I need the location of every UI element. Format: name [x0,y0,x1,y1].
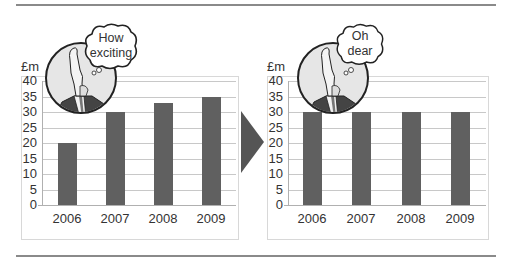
x-tick-label: 2009 [187,211,235,226]
x-tick-label: 2008 [387,211,435,226]
bar-2007 [352,112,371,205]
top-rule [16,4,496,6]
x-axis-line [38,205,236,206]
y-tick-label: 0 [261,197,283,212]
bar-2009 [451,112,470,205]
bar-2008 [402,112,421,205]
y-tick-label: 40 [261,73,283,88]
y-axis-unit-label: £m [267,59,285,74]
y-tick-label: 35 [15,89,37,104]
x-axis-line [284,205,486,206]
bar-2007 [106,112,125,205]
y-tick-label: 10 [261,166,283,181]
bubble-line: How [85,31,137,46]
bubble-line: Oh [336,29,384,44]
y-axis-line [42,81,43,206]
bubble-line: exciting [85,46,137,61]
y-axis-unit-label: £m [21,59,39,74]
x-tick-label: 2009 [436,211,484,226]
y-tick-label: 30 [261,104,283,119]
y-tick-label: 15 [261,151,283,166]
y-tick-label: 0 [15,197,37,212]
y-tick-label: 10 [15,166,37,181]
y-tick-label: 20 [15,135,37,150]
thought-bubble-text: Oh dear [336,29,384,59]
x-tick-label: 2008 [139,211,187,226]
x-tick-label: 2007 [337,211,385,226]
y-tick-label: 20 [261,135,283,150]
bar-2006 [58,143,77,205]
y-tick-label: 5 [15,182,37,197]
thought-bubble-text: How exciting [85,31,137,61]
y-tick-label: 30 [15,104,37,119]
bubble-line: dear [336,44,384,59]
x-tick-label: 2006 [43,211,91,226]
y-tick-label: 5 [261,182,283,197]
bottom-rule [16,255,496,257]
y-tick-label: 25 [15,120,37,135]
y-tick-label: 35 [261,89,283,104]
bar-2006 [303,112,322,205]
x-tick-label: 2007 [91,211,139,226]
x-tick-label: 2006 [288,211,336,226]
bar-2009 [202,97,221,205]
bar-2008 [154,103,173,205]
y-tick-label: 15 [15,151,37,166]
y-tick-label: 25 [261,120,283,135]
y-axis-line [288,81,289,206]
y-tick-label: 40 [15,73,37,88]
